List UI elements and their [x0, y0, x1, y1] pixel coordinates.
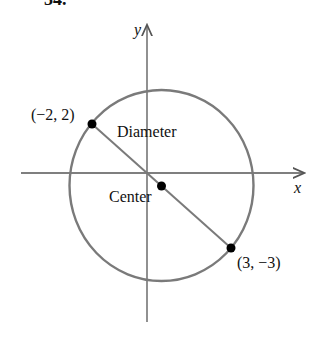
center-label: Center	[109, 189, 152, 205]
diameter-label: Diameter	[117, 124, 177, 140]
center-dot	[157, 182, 166, 191]
x-axis-label: x	[294, 180, 301, 196]
point-b-label: (3, −3)	[237, 255, 281, 271]
point-a-label: (−2, 2)	[31, 107, 75, 123]
point-b-dot	[227, 244, 236, 253]
circle-diagram	[0, 0, 324, 341]
y-axis-label: y	[134, 22, 141, 38]
point-a-dot	[88, 120, 97, 129]
